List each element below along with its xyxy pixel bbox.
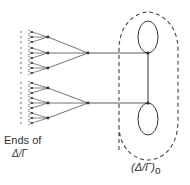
branch-edge: [48, 88, 88, 103]
leaf-node: [31, 31, 33, 33]
end-dot: [20, 57, 21, 58]
end-dot: [20, 31, 21, 32]
leaf-edge: [32, 98, 48, 103]
leaf-node: [31, 41, 33, 43]
quotient-subscript: o: [155, 165, 161, 176]
end-dot: [20, 67, 21, 68]
end-dot: [20, 52, 21, 53]
leaf-edge: [32, 63, 48, 68]
loop-0: [138, 21, 158, 53]
branch-edge: [48, 37, 88, 53]
quotient-label-text: (Δ/Γ): [131, 161, 155, 173]
leaf-node: [31, 117, 33, 119]
leaf-node: [31, 87, 33, 89]
end-dot: [20, 36, 21, 37]
leaf-edge: [32, 48, 48, 53]
leaf-node: [31, 52, 33, 54]
leaf-edge: [32, 88, 48, 93]
end-dot: [20, 92, 21, 93]
leaf-node: [31, 102, 33, 104]
end-dot: [20, 62, 21, 63]
leaf-node: [31, 97, 33, 99]
branch-edge: [48, 103, 88, 118]
leaf-edge: [32, 32, 48, 37]
leaf-node: [31, 82, 33, 84]
end-dot: [20, 117, 21, 118]
leaf-edge: [32, 103, 48, 108]
leaf-edge: [32, 83, 48, 88]
end-dot: [20, 82, 21, 83]
leaf-edge: [32, 37, 48, 42]
leaf-edge: [32, 113, 48, 118]
ends-label: Ends of: [4, 134, 41, 146]
leaf-node: [31, 67, 33, 69]
leaf-node: [31, 36, 33, 38]
leaf-node: [31, 92, 33, 94]
leaf-node: [31, 72, 33, 74]
quotient-ends-label: Δ/Γ: [12, 148, 27, 159]
diagram-root: Ends of Δ/Γ (Δ/Γ)o: [0, 0, 190, 185]
end-dot: [20, 41, 21, 42]
leaf-node: [31, 107, 33, 109]
end-dot: [20, 102, 21, 103]
leaf-node: [31, 47, 33, 49]
leaf-node: [31, 112, 33, 114]
leaf-edge: [32, 53, 48, 58]
end-dot: [20, 72, 21, 73]
end-dot: [20, 87, 21, 88]
leaf-node: [31, 62, 33, 64]
end-dot: [20, 122, 21, 123]
end-dot: [20, 47, 21, 48]
end-dot: [20, 97, 21, 98]
leaf-edge: [32, 118, 48, 123]
leaf-node: [31, 122, 33, 124]
loop-1: [138, 103, 158, 135]
end-dot: [20, 107, 21, 108]
finite-quotient-label: (Δ/Γ)o: [131, 161, 161, 176]
leaf-edge: [32, 68, 48, 73]
leaf-node: [31, 57, 33, 59]
branch-edge: [48, 53, 88, 68]
graph-diagram: [0, 0, 190, 185]
end-dot: [20, 112, 21, 113]
